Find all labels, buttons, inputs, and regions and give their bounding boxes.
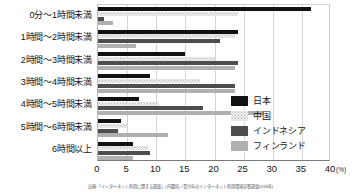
bar-id [98, 17, 104, 21]
bar-jp [98, 119, 121, 123]
x-tick-label: 15 [179, 163, 190, 174]
legend-swatch-icon-japan [231, 96, 248, 106]
bar-cn [98, 12, 238, 16]
legend-label-japan: 日本 [253, 96, 271, 106]
bar-jp [98, 97, 139, 101]
category-label: 6時間以上 [0, 144, 92, 154]
x-axis-unit-label: (%) [336, 166, 346, 173]
bar-cn [98, 124, 127, 128]
bar-id [98, 106, 203, 110]
category-label: 1時間〜2時間未満 [0, 32, 92, 42]
bar-id [98, 39, 220, 43]
bar-cn [98, 34, 235, 38]
legend-item-japan[interactable]: 日本 [231, 93, 331, 108]
legend-swatch-icon-indonesia [231, 126, 248, 136]
x-tick-label: 10 [150, 163, 161, 174]
legend-label-indonesia: インドネシア [253, 126, 306, 136]
bar-jp [98, 30, 238, 34]
category-label: 4時間〜5時間未満 [0, 99, 92, 109]
legend-label-china: 中国 [253, 111, 271, 121]
bar-cn [98, 146, 148, 150]
bar-fi [98, 89, 235, 93]
category-label: 5時間〜6時間未満 [0, 122, 92, 132]
legend-item-indonesia[interactable]: インドネシア [231, 123, 331, 138]
x-tick-label: 30 [266, 163, 277, 174]
x-tick-label: 40 [325, 163, 336, 174]
grouped-bar-chart: 0分〜1時間未満1時間〜2時間未満2時間〜3時間未満3時間〜4時間未満4時間〜5… [0, 0, 361, 194]
source-caption: 出典:「インターネット利用に関する調査」(内閣府／青少年のインターネット利用環境… [88, 184, 273, 189]
bar-group [98, 50, 329, 72]
bar-group [98, 5, 329, 27]
x-tick-label: 35 [296, 163, 307, 174]
legend: 日本 中国 インドネシア フィンランド [231, 93, 331, 153]
bar-jp [98, 52, 185, 56]
bar-fi [98, 66, 235, 70]
bar-fi [98, 133, 168, 137]
bar-jp [98, 74, 150, 78]
legend-item-china[interactable]: 中国 [231, 108, 331, 123]
bar-id [98, 129, 118, 133]
x-tick-label: 0 [94, 163, 99, 174]
bar-fi [98, 156, 133, 160]
bar-jp [98, 142, 133, 146]
bar-group [98, 72, 329, 94]
legend-label-finland: フィンランド [253, 141, 306, 151]
bar-id [98, 84, 235, 88]
bar-cn [98, 102, 159, 106]
bar-id [98, 61, 238, 65]
bar-cn [98, 79, 200, 83]
bar-group [98, 27, 329, 49]
bar-fi [98, 21, 113, 25]
bar-id [98, 151, 150, 155]
x-tick-label: 5 [123, 163, 128, 174]
bar-fi [98, 44, 136, 48]
category-label: 0分〜1時間未満 [0, 10, 92, 20]
category-label: 3時間〜4時間未満 [0, 77, 92, 87]
category-label: 2時間〜3時間未満 [0, 55, 92, 65]
legend-swatch-icon-china [231, 111, 248, 121]
x-tick-label: 25 [237, 163, 248, 174]
bar-jp [98, 7, 311, 11]
legend-swatch-icon-finland [231, 141, 248, 151]
bar-cn [98, 57, 215, 61]
legend-item-finland[interactable]: フィンランド [231, 138, 331, 153]
x-tick-label: 20 [208, 163, 219, 174]
